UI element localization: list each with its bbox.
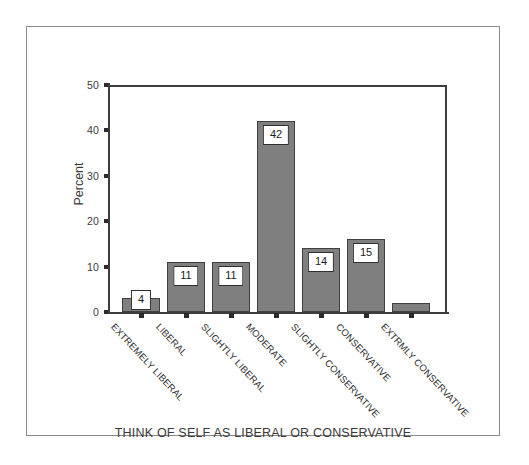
x-tick-mark	[274, 313, 279, 318]
x-tick-mark	[319, 313, 324, 318]
y-tick-mark	[104, 265, 108, 269]
bar-value-label: 11	[218, 266, 243, 286]
plot-right-border	[445, 85, 447, 312]
y-tick-20: 20	[84, 221, 108, 231]
y-tick-40: 40	[84, 130, 108, 140]
bar-moderate[interactable]	[257, 121, 295, 312]
y-tick-30: 30	[84, 176, 108, 186]
y-tick-label: 40	[87, 124, 99, 136]
x-tick-mark	[364, 313, 369, 318]
y-tick-mark	[104, 174, 108, 178]
plot-top-border	[110, 85, 447, 87]
x-axis-line	[108, 312, 449, 314]
y-tick-label: 20	[87, 215, 99, 227]
x-category-label-moderate: MODERATE	[244, 321, 289, 369]
bar-value-label: 11	[173, 266, 198, 286]
x-tick-mark	[409, 313, 414, 318]
x-tick-mark	[139, 313, 144, 318]
y-tick-label: 30	[87, 170, 99, 182]
x-tick-mark	[184, 313, 189, 318]
x-category-label-extremely-conservative: EXTRMLY CONSERVATIVE	[379, 321, 471, 419]
y-tick-10: 10	[84, 267, 108, 277]
y-tick-50: 50	[84, 85, 108, 95]
y-tick-mark	[104, 219, 108, 223]
bar-value-label: 15	[353, 243, 379, 263]
chart-frame: Percent 50 40 30 20 10 0 4 11	[26, 26, 500, 436]
y-tick-label: 0	[93, 306, 99, 318]
y-tick-mark	[104, 83, 108, 87]
x-category-label-slightly-conservative: SLIGHTLY CONSERVATIVE	[289, 321, 382, 420]
bar-extremely-conservative[interactable]	[392, 303, 430, 312]
x-category-label-liberal: LIBERAL	[154, 321, 190, 358]
plot-area: 4 11 11 42 14 15	[110, 85, 447, 312]
bar-value-label: 4	[131, 290, 151, 310]
y-tick-label: 10	[87, 261, 99, 273]
bar-value-label: 14	[308, 252, 334, 272]
x-category-label-extremely-liberal: EXTREMELY LIBERAL	[109, 321, 186, 403]
x-axis-title: THINK OF SELF AS LIBERAL OR CONSERVATIVE	[27, 426, 499, 440]
x-tick-mark	[229, 313, 234, 318]
y-tick-mark	[104, 310, 108, 314]
y-tick-0: 0	[84, 312, 108, 322]
y-tick-mark	[104, 128, 108, 132]
bar-value-label: 42	[263, 125, 289, 145]
y-tick-label: 50	[87, 79, 99, 91]
